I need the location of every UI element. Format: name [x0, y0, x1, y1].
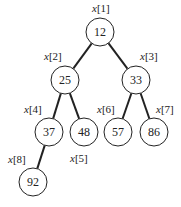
node-index-label: x[8] — [7, 153, 26, 165]
node-index-label: x[7] — [155, 103, 174, 115]
node-index-label: x[3] — [139, 50, 158, 62]
tree-edge — [53, 93, 61, 118]
tree-node: 33 — [122, 66, 150, 94]
node-value: 37 — [43, 125, 55, 139]
tree-edge — [141, 93, 150, 119]
tree-edge — [123, 93, 132, 119]
tree-node: 48 — [70, 118, 98, 146]
node-value: 48 — [78, 125, 90, 139]
tree-node: 86 — [140, 118, 168, 146]
tree-node: 12 — [86, 18, 114, 46]
node-index-label: x[4] — [23, 103, 42, 115]
node-value: 25 — [59, 73, 71, 87]
heap-tree-diagram: 12x[1]25x[2]33x[3]37x[4]48x[5]57x[6]86x[… — [0, 0, 181, 207]
node-index-label: x[2] — [43, 50, 62, 62]
tree-node: 25 — [51, 66, 79, 94]
tree-node: 37 — [35, 118, 63, 146]
node-value: 57 — [112, 125, 124, 139]
node-value: 33 — [130, 73, 142, 87]
tree-edge — [37, 145, 44, 168]
node-value: 92 — [27, 175, 39, 189]
tree-node: 92 — [19, 168, 47, 196]
tree-node: 57 — [104, 118, 132, 146]
tree-edge — [70, 93, 79, 119]
tree-edge — [73, 43, 92, 68]
node-value: 12 — [94, 25, 106, 39]
node-value: 86 — [148, 125, 160, 139]
node-index-label: x[6] — [96, 103, 115, 115]
node-index-label: x[5] — [69, 152, 88, 164]
tree-edge — [108, 43, 127, 69]
node-index-label: x[1] — [91, 2, 110, 14]
